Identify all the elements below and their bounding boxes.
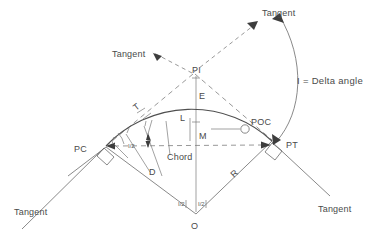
tangent-label-bottom-right: Tangent — [318, 204, 352, 214]
poc-marker-circle — [241, 125, 249, 133]
angle-label-half-delta-pc: I/2 — [128, 143, 135, 149]
dimension-label-external: E — [199, 91, 205, 101]
curve-diagram: Tangent Tangent Tangent Tangent PI PC PT… — [0, 0, 388, 239]
point-label-pi: PI — [192, 65, 201, 75]
tangent-label-bottom-left: Tangent — [14, 207, 48, 217]
deflection-line-1 — [112, 142, 128, 158]
chord-arrowhead-right — [261, 142, 271, 149]
dimension-label-chord: Chord — [167, 152, 193, 162]
dimension-label-arc-length: L — [180, 113, 185, 123]
right-angle-marker-pc — [97, 148, 114, 165]
tangent-label-top-right: Tangent — [262, 8, 296, 18]
delta-angle-indicator-arc — [276, 15, 298, 142]
arc-tick-3 — [145, 121, 146, 126]
point-label-o: O — [191, 221, 198, 231]
dimension-label-deflection: D — [149, 167, 156, 177]
point-label-pc: PC — [74, 144, 87, 154]
curve-arc — [106, 109, 272, 146]
upper-left-tangent-arrowhead — [153, 53, 162, 61]
delta-angle-arc-arrowhead-bottom — [272, 134, 281, 145]
deflection-line-4 — [166, 121, 170, 155]
tangent-label-top-left: Tangent — [112, 49, 146, 59]
angle-label-half-delta-right: I/2 — [198, 201, 205, 207]
dimension-label-radius: R — [228, 167, 240, 179]
point-label-poc: POC — [251, 117, 271, 127]
chord-line — [114, 145, 262, 146]
delta-angle-note: I = Delta angle — [297, 75, 363, 86]
angle-label-half-delta-left: I/2 — [178, 201, 185, 207]
angle-tick-pc-arrow — [146, 141, 151, 148]
top-right-tangent-arrowhead — [247, 21, 258, 30]
dimension-label-middle-ordinate: M — [199, 131, 207, 141]
curve-diagram-canvas: Tangent Tangent Tangent Tangent PI PC PT… — [0, 0, 388, 239]
point-label-pt: PT — [286, 140, 298, 150]
angle-tick-pc-upper — [148, 120, 152, 134]
forward-tangent-extension-upper-right — [194, 22, 258, 72]
